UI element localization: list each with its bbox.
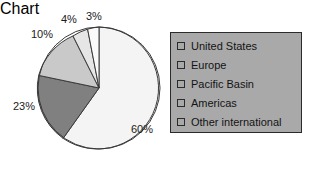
legend-item-united-states[interactable]: United States <box>177 37 301 55</box>
legend-swatch-icon <box>177 118 185 126</box>
pie-label-europe: 23% <box>13 101 35 112</box>
legend-item-pacific-basin[interactable]: Pacific Basin <box>177 75 301 93</box>
pie-label-united-states: 60% <box>131 124 153 135</box>
legend-label-pacific-basin: Pacific Basin <box>191 78 254 90</box>
legend-label-united-states: United States <box>191 40 257 52</box>
legend-item-americas[interactable]: Americas <box>177 94 301 112</box>
legend-label-americas: Americas <box>191 97 237 109</box>
legend-item-other-international[interactable]: Other international <box>177 113 301 131</box>
pie-chart-figure: 60% 23% 10% 4% 3% United States Europe P… <box>0 0 316 169</box>
legend-label-europe: Europe <box>191 59 226 71</box>
pie-label-pacific-basin: 10% <box>31 29 53 40</box>
legend-swatch-icon <box>177 61 185 69</box>
pie-label-americas: 4% <box>61 14 77 25</box>
legend-swatch-icon <box>177 99 185 107</box>
pie-graphic <box>0 0 170 169</box>
legend-swatch-icon <box>177 42 185 50</box>
pie-plot-area: 60% 23% 10% 4% 3% <box>0 0 170 169</box>
legend-swatch-icon <box>177 80 185 88</box>
legend-item-europe[interactable]: Europe <box>177 56 301 74</box>
pie-label-other-international: 3% <box>86 11 102 22</box>
legend-label-other-international: Other international <box>191 116 282 128</box>
legend: United States Europe Pacific Basin Ameri… <box>170 32 302 133</box>
